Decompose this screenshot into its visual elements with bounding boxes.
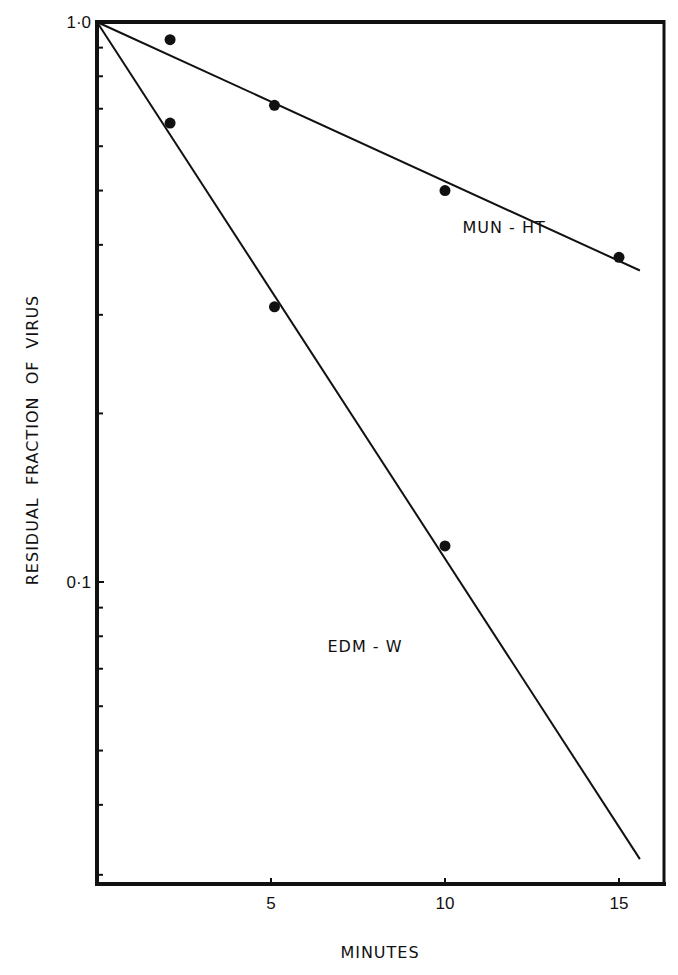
series-label-edm-w: EDM - W	[327, 637, 402, 656]
chart: 1·00·1 51015 MUN - HTEDM - W MINUTES RES…	[0, 0, 678, 975]
data-point-edm-w	[269, 301, 280, 312]
data-points	[165, 34, 625, 551]
data-point-mun-ht	[165, 34, 176, 45]
x-tick-label: 10	[436, 894, 455, 913]
y-tick-label: 0·1	[66, 573, 91, 592]
x-tick-label: 15	[610, 894, 629, 913]
data-point-edm-w	[440, 540, 451, 551]
data-point-mun-ht	[269, 100, 280, 111]
x-axis-title: MINUTES	[340, 943, 419, 962]
y-axis-title: RESIDUAL FRACTION OF VIRUS	[23, 295, 42, 586]
fit-line-edm-w	[97, 22, 640, 859]
fit-lines	[97, 22, 640, 859]
series-label-mun-ht: MUN - HT	[463, 218, 546, 237]
data-point-mun-ht	[614, 252, 625, 263]
y-tick-label: 1·0	[66, 13, 91, 32]
x-tick-label: 5	[266, 894, 275, 913]
series-labels: MUN - HTEDM - W	[327, 218, 545, 656]
data-point-edm-w	[165, 118, 176, 129]
data-point-mun-ht	[440, 185, 451, 196]
